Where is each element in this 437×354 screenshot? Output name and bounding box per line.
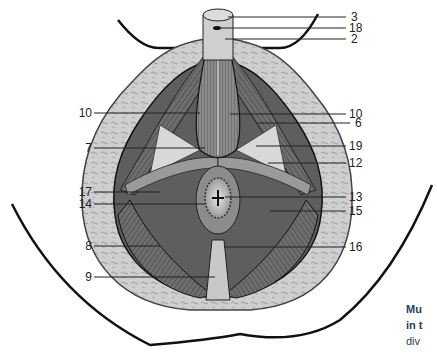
label-8: 8: [68, 240, 92, 252]
label-2: 2: [351, 33, 358, 45]
thigh-outline-top-right: [240, 14, 318, 48]
anatomy-figure: 3 18 2 10 6 19 12 13 15 16 10 7 17 14 8 …: [0, 0, 437, 354]
label-9: 9: [68, 271, 92, 283]
perineum-illustration: [0, 0, 437, 354]
label-7: 7: [68, 142, 92, 154]
caption-line-1: Mu: [406, 301, 423, 317]
penis-shaft: [203, 15, 233, 60]
label-19: 19: [349, 140, 362, 152]
label-14: 14: [68, 198, 92, 210]
caption-line-2: in t: [406, 317, 423, 333]
penis-cross-section: [203, 9, 233, 21]
figure-caption: Mu in t div: [406, 301, 423, 349]
label-15: 15: [349, 205, 362, 217]
label-10-left: 10: [68, 107, 92, 119]
label-12: 12: [349, 157, 362, 169]
label-13: 13: [349, 191, 362, 203]
label-16: 16: [349, 241, 362, 253]
urethra: [213, 26, 221, 30]
label-6: 6: [355, 117, 362, 129]
caption-line-3: div: [406, 333, 423, 349]
